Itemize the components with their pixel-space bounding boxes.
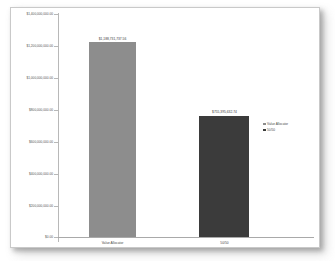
legend-swatch-icon	[263, 129, 266, 132]
y-tick-label: $400,000,000.00	[11, 172, 53, 176]
y-tick-mark	[54, 46, 58, 47]
y-tick-mark	[54, 237, 58, 238]
y-tick-mark	[54, 142, 58, 143]
x-category-label-5050: 50/50	[194, 241, 255, 245]
y-tick-mark	[54, 14, 58, 15]
y-tick-mark	[54, 206, 58, 207]
chart-plot-area: $1,400,000,000.00 $1,200,000,000.00 $1,0…	[11, 8, 321, 249]
bar-5050[interactable]	[199, 116, 249, 237]
chart-legend: Value Allocator 50/50	[263, 121, 288, 133]
y-tick-label: $1,000,000,000.00	[11, 76, 53, 80]
y-tick-mark	[54, 174, 58, 175]
y-tick-label: $600,000,000.00	[11, 140, 53, 144]
bar-value-label-value-allocator: $1,188,731,737.56	[82, 37, 143, 41]
y-axis-line	[58, 13, 59, 242]
y-tick-label: $800,000,000.00	[11, 108, 53, 112]
bar-value-label-5050: $755,395,632.74	[194, 110, 255, 114]
chart-card: $1,400,000,000.00 $1,200,000,000.00 $1,0…	[10, 7, 320, 248]
y-tick-label: $0.00	[11, 235, 53, 239]
legend-label: 50/50	[267, 127, 275, 133]
legend-swatch-icon	[263, 123, 266, 126]
x-category-label-value-allocator: Value Allocator	[82, 241, 143, 245]
y-tick-label: $1,200,000,000.00	[11, 44, 53, 48]
y-tick-mark	[54, 78, 58, 79]
y-tick-label: $1,400,000,000.00	[11, 12, 53, 16]
y-tick-mark	[54, 110, 58, 111]
y-tick-label: $200,000,000.00	[11, 204, 53, 208]
legend-item-5050[interactable]: 50/50	[263, 127, 288, 133]
bar-value-allocator[interactable]	[89, 42, 136, 237]
x-axis-line	[58, 237, 314, 238]
